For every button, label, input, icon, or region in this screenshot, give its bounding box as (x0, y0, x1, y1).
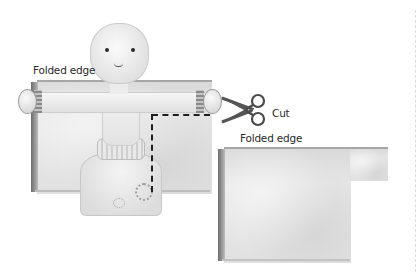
left-hand (18, 89, 37, 114)
skirt-paw-decoration (113, 198, 125, 208)
scissors-icon (218, 92, 270, 128)
paper-sheet-main (224, 147, 351, 263)
cut-line-horizontal (152, 114, 210, 116)
cut-line-vertical (151, 114, 153, 192)
doll-figure (0, 0, 240, 220)
folded-edge-label-top: Folded edge (33, 64, 95, 76)
page-margin-guide (415, 10, 416, 272)
doll-arms (32, 92, 210, 113)
doll-mouth (114, 63, 123, 67)
cut-label: Cut (272, 107, 290, 119)
doll-right-eye (131, 48, 135, 52)
paper-sheet-tab (350, 147, 388, 181)
doll-left-eye (105, 48, 109, 52)
paper-bottom-edge (222, 259, 350, 261)
doll-head (90, 23, 149, 84)
folded-edge-label-bottom: Folded edge (240, 132, 302, 144)
cut-paper-step-2 (218, 147, 390, 263)
paper-fold-edge (218, 149, 225, 261)
